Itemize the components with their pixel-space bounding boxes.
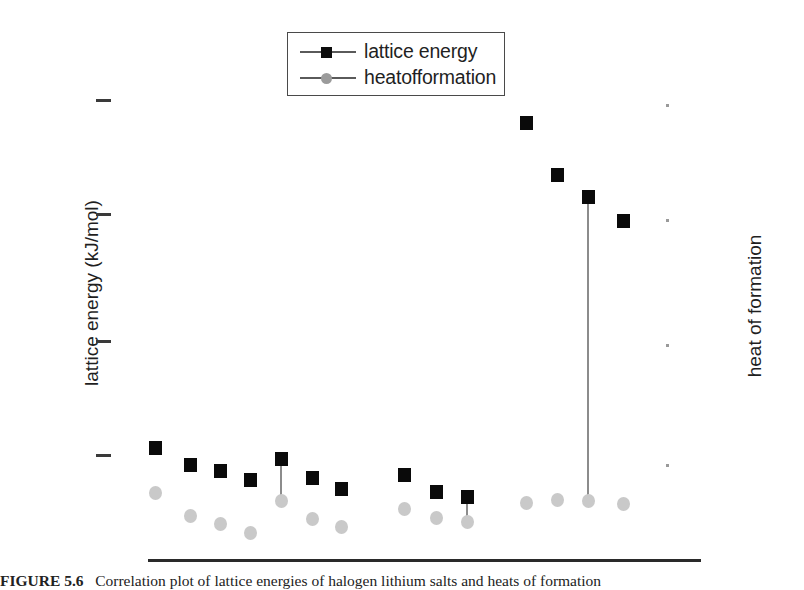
right-axis-tick-0	[666, 104, 669, 107]
data-point-heat-of-formation-8	[430, 511, 443, 525]
data-point-heat-of-formation-12	[582, 494, 595, 508]
right-axis-tick-2	[666, 344, 669, 347]
plot-area	[0, 0, 804, 560]
data-point-lattice-energy-7	[398, 468, 411, 482]
caption-divider	[148, 559, 701, 562]
left-axis-tick-0	[96, 99, 111, 102]
data-point-heat-of-formation-1	[184, 509, 197, 523]
data-point-heat-of-formation-3	[244, 526, 257, 540]
data-point-lattice-energy-5	[306, 471, 319, 485]
data-point-heat-of-formation-5	[306, 512, 319, 526]
figure-caption-label: FIGURE 5.6	[0, 572, 84, 589]
data-point-lattice-energy-11	[551, 168, 564, 182]
figure-caption: FIGURE 5.6 Correlation plot of lattice e…	[0, 572, 804, 590]
left-axis-tick-3	[96, 454, 111, 457]
data-point-heat-of-formation-11	[551, 493, 564, 507]
data-point-lattice-energy-4	[275, 452, 288, 466]
data-point-heat-of-formation-13	[617, 497, 630, 511]
data-point-heat-of-formation-2	[214, 517, 227, 531]
data-point-lattice-energy-2	[214, 464, 227, 478]
left-axis-tick-1	[96, 213, 111, 216]
data-point-heat-of-formation-4	[275, 494, 288, 508]
data-point-lattice-energy-9	[461, 490, 474, 504]
data-point-heat-of-formation-6	[335, 520, 348, 534]
data-point-lattice-energy-12	[582, 190, 595, 204]
data-point-lattice-energy-1	[184, 458, 197, 472]
data-point-lattice-energy-6	[335, 482, 348, 496]
data-point-heat-of-formation-7	[398, 502, 411, 516]
right-axis-tick-3	[666, 464, 669, 467]
data-point-heat-of-formation-10	[520, 496, 533, 510]
data-point-lattice-energy-8	[430, 485, 443, 499]
right-axis-tick-1	[666, 219, 669, 222]
data-point-lattice-energy-13	[617, 214, 630, 228]
data-point-heat-of-formation-0	[149, 486, 162, 500]
data-point-lattice-energy-10	[520, 116, 533, 130]
drop-line-2	[587, 197, 588, 501]
figure-caption-body: Correlation plot of lattice energies of …	[95, 572, 601, 589]
left-axis-tick-2	[96, 340, 111, 343]
data-point-lattice-energy-0	[149, 441, 162, 455]
data-point-lattice-energy-3	[244, 473, 257, 487]
data-point-heat-of-formation-9	[461, 515, 474, 529]
